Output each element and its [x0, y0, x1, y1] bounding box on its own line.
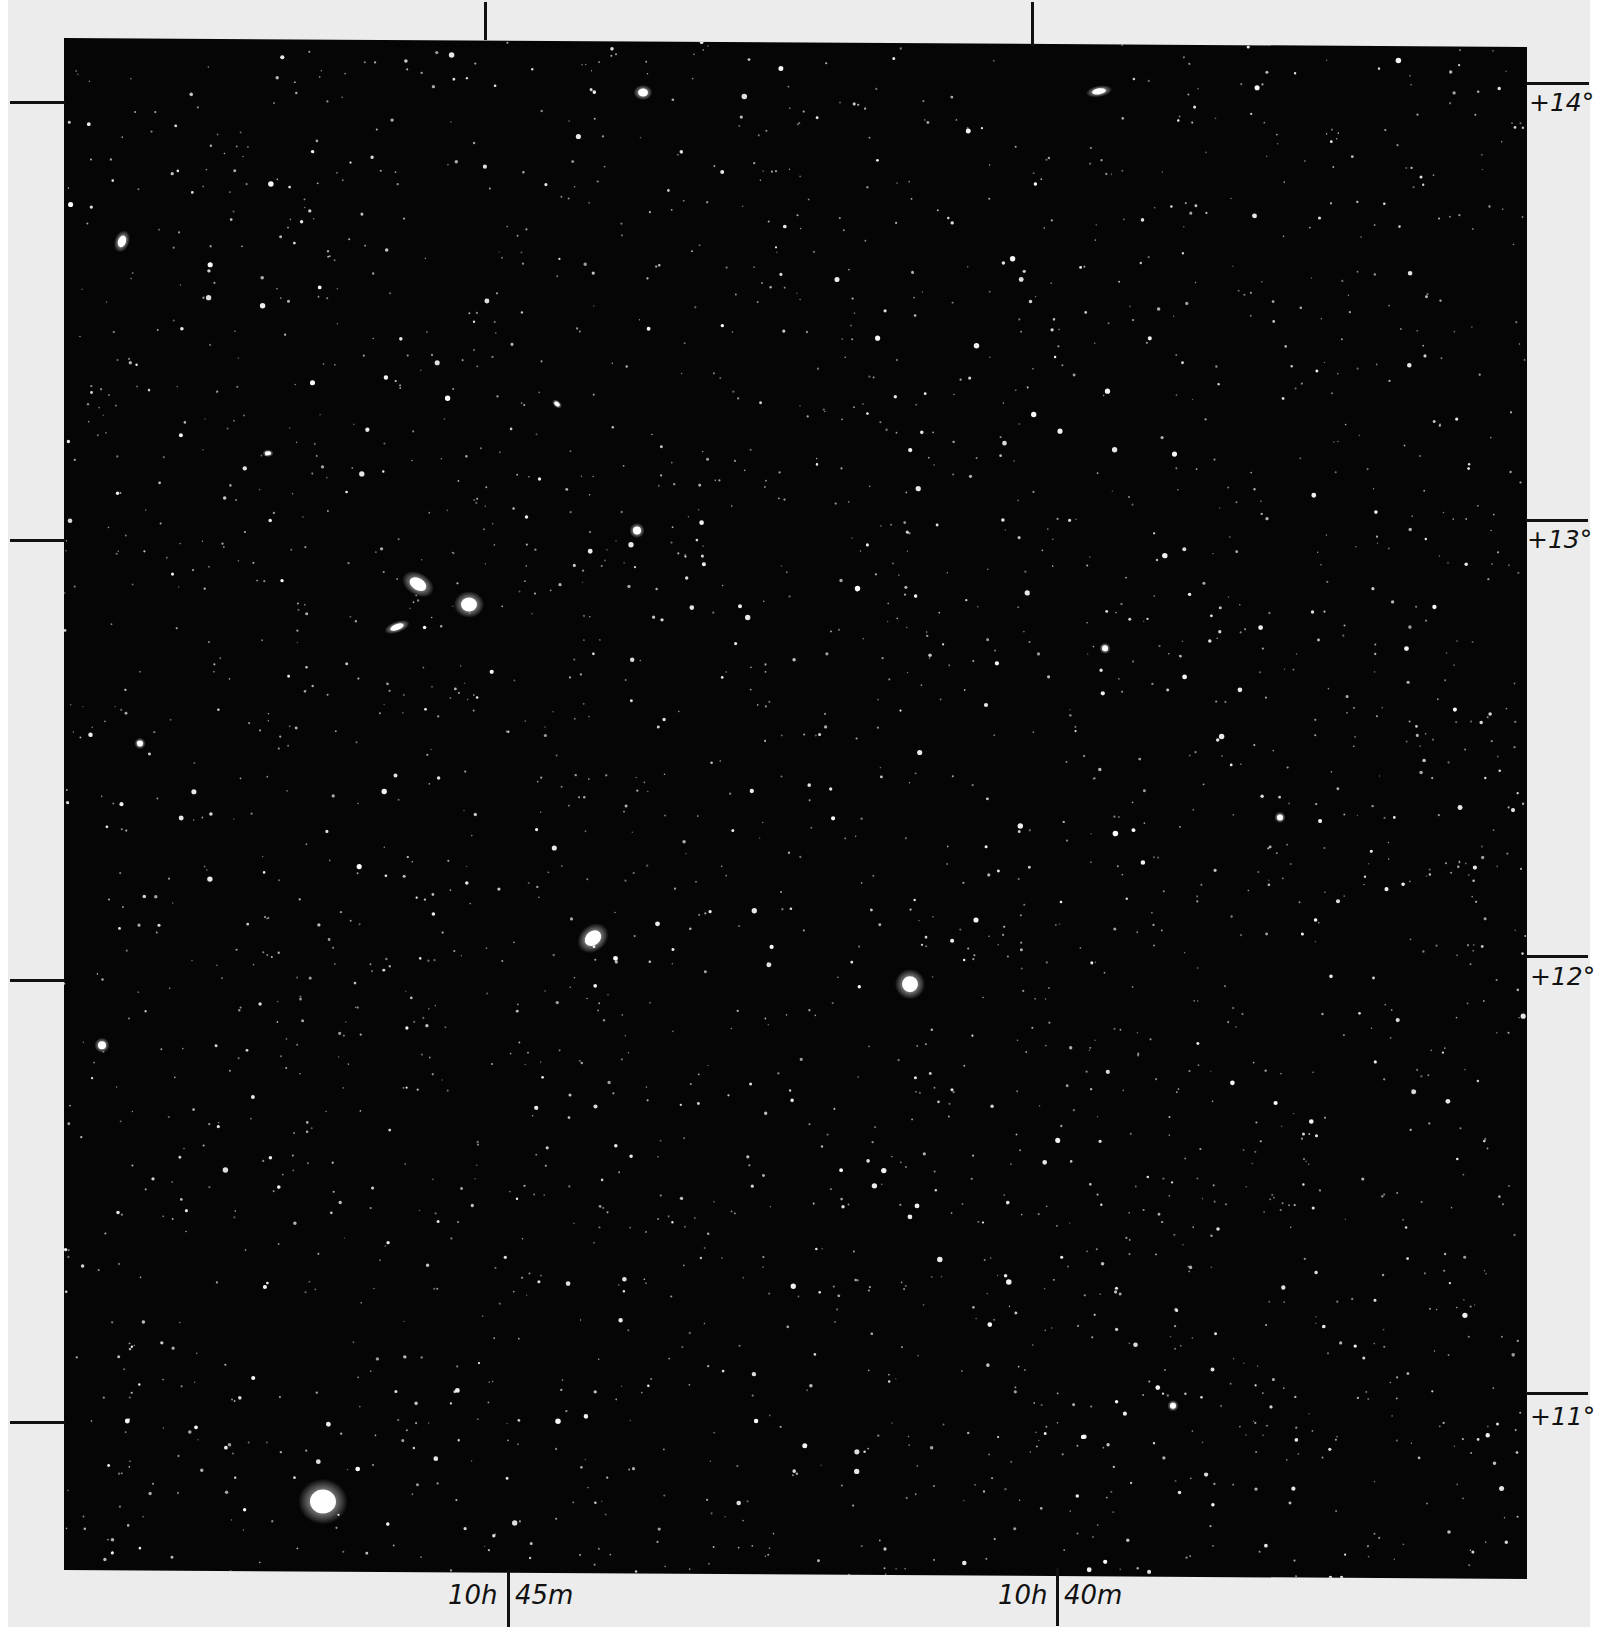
star — [854, 312, 856, 314]
star — [233, 210, 235, 212]
star — [972, 1306, 975, 1309]
star — [1262, 647, 1264, 649]
star — [569, 676, 571, 678]
star — [1438, 814, 1440, 816]
star — [1247, 890, 1249, 892]
star — [903, 1288, 905, 1290]
star — [792, 658, 795, 661]
star — [334, 259, 336, 261]
star — [504, 1256, 507, 1259]
star — [1406, 1372, 1409, 1375]
star — [715, 480, 717, 482]
star — [630, 699, 633, 702]
star — [710, 1460, 711, 1461]
star — [1328, 1448, 1331, 1451]
star — [890, 524, 892, 526]
star — [925, 945, 927, 947]
star — [307, 1162, 309, 1164]
star — [1468, 1336, 1470, 1338]
star — [602, 1207, 604, 1209]
star — [579, 1060, 581, 1062]
star — [1265, 71, 1268, 74]
star — [1506, 708, 1508, 710]
star — [273, 1190, 275, 1192]
star — [983, 1490, 985, 1492]
star — [419, 957, 422, 960]
star — [348, 238, 350, 240]
star — [1265, 932, 1268, 935]
galaxy — [461, 597, 477, 611]
star — [636, 789, 638, 791]
star — [1003, 1194, 1005, 1196]
star — [854, 1279, 856, 1281]
star — [1019, 423, 1021, 425]
star — [1499, 1486, 1504, 1491]
star — [1217, 383, 1219, 385]
star — [1456, 1484, 1458, 1486]
star — [1090, 1088, 1092, 1090]
star — [1143, 789, 1146, 792]
star — [64, 1248, 67, 1251]
star — [663, 1494, 665, 1496]
star — [1473, 944, 1475, 946]
star — [968, 376, 971, 379]
star — [375, 551, 377, 553]
star — [803, 110, 805, 112]
star — [217, 134, 219, 136]
star — [1483, 1000, 1485, 1002]
star — [492, 1534, 495, 1537]
star — [839, 579, 842, 582]
star — [238, 1057, 240, 1059]
star — [1003, 402, 1004, 403]
star — [1184, 952, 1185, 953]
star — [586, 878, 588, 880]
star — [1459, 49, 1461, 51]
star — [818, 733, 821, 736]
star — [1061, 364, 1063, 366]
star — [1422, 345, 1424, 347]
star — [484, 1546, 485, 1547]
star — [1178, 1491, 1182, 1495]
star — [850, 961, 853, 964]
star — [1252, 1163, 1254, 1165]
star — [318, 286, 322, 290]
star — [920, 431, 924, 435]
star — [519, 1520, 521, 1522]
star — [1482, 169, 1483, 170]
star — [1403, 1543, 1405, 1545]
star — [1348, 294, 1350, 296]
star — [789, 107, 791, 109]
star — [276, 179, 278, 181]
star — [304, 207, 305, 208]
star — [937, 1100, 940, 1103]
star — [301, 1019, 304, 1022]
star — [1089, 1050, 1090, 1051]
star — [1146, 342, 1148, 344]
star — [645, 1231, 647, 1233]
star — [527, 1052, 529, 1054]
star — [243, 466, 247, 470]
star — [499, 451, 501, 453]
star — [1004, 1488, 1006, 1490]
star — [296, 442, 297, 443]
star — [1428, 1122, 1430, 1124]
star — [1508, 564, 1510, 566]
star — [534, 592, 536, 594]
star — [233, 169, 236, 172]
star — [1276, 852, 1278, 854]
star — [1031, 1027, 1033, 1029]
star — [1032, 1344, 1033, 1345]
star — [952, 441, 954, 443]
star — [313, 218, 315, 220]
star — [593, 90, 597, 94]
star — [484, 299, 489, 304]
star — [576, 134, 581, 139]
star — [1102, 645, 1108, 651]
star — [870, 1332, 873, 1335]
star — [869, 137, 871, 139]
star — [121, 1213, 123, 1215]
star — [1484, 1270, 1486, 1272]
star — [1148, 1380, 1150, 1382]
star — [67, 440, 70, 443]
star — [1169, 1195, 1171, 1197]
